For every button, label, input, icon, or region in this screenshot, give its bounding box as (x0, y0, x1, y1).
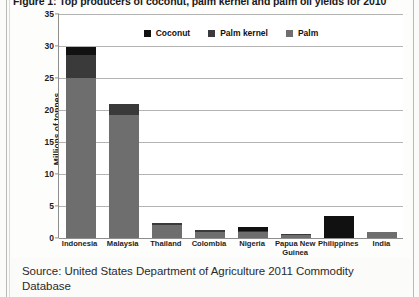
bar-slot-india[interactable] (360, 14, 403, 238)
bar-slot-malaysia[interactable] (102, 14, 145, 238)
y-tick-label-35: 35 (45, 9, 54, 19)
source-caption: Source: United States Department of Agri… (22, 264, 392, 294)
bar-slot-thailand[interactable] (145, 14, 188, 238)
y-tick-label-15: 15 (45, 137, 54, 147)
legend-swatch-icon (208, 30, 215, 37)
x-axis-label-papua-new-guinea: Papua New Guinea (274, 240, 317, 257)
stacked-bar[interactable] (66, 47, 96, 238)
bar-segment-palm[interactable] (281, 235, 311, 238)
x-axis-label-india: India (360, 240, 403, 257)
stacked-bar[interactable] (281, 234, 311, 238)
bar-series-group (59, 14, 403, 238)
plot-area: 05101520253035 CoconutPalm kernelPalm (58, 14, 403, 238)
x-axis-label-indonesia: Indonesia (58, 240, 101, 257)
legend-label: Palm kernel (220, 28, 268, 38)
bar-slot-indonesia[interactable] (59, 14, 102, 238)
y-tick-label-5: 5 (49, 201, 54, 211)
y-tick-label-20: 20 (45, 105, 54, 115)
bar-slot-papua-new-guinea[interactable] (274, 14, 317, 238)
x-axis-label-nigeria: Nigeria (231, 240, 274, 257)
bar-segment-palm[interactable] (195, 232, 225, 238)
chart-figure: Figure 1: Top producers of coconut, palm… (11, 0, 411, 258)
bar-slot-philippines[interactable] (317, 14, 360, 238)
page-rule-left-inner (9, 0, 10, 297)
page-rule-right (413, 0, 414, 297)
bar-slot-colombia[interactable] (188, 14, 231, 238)
stacked-bar[interactable] (109, 104, 139, 238)
x-axis-label-thailand: Thailand (144, 240, 187, 257)
legend-label: Palm (298, 28, 318, 38)
chart-title: Figure 1: Top producers of coconut, palm… (13, 0, 409, 7)
bar-segment-coconut[interactable] (66, 47, 96, 55)
page-rule-left (6, 0, 7, 297)
x-axis-label-philippines: Philippines (317, 240, 360, 257)
y-tick-label-25: 25 (45, 73, 54, 83)
legend-item-palm: Palm (286, 28, 318, 38)
y-tick-label-0: 0 (49, 233, 54, 243)
legend-swatch-icon (286, 30, 293, 37)
y-tick-label-10: 10 (45, 169, 54, 179)
bar-segment-palm[interactable] (66, 78, 96, 238)
y-tick-label-30: 30 (45, 41, 54, 51)
stacked-bar[interactable] (238, 227, 268, 238)
bar-slot-nigeria[interactable] (231, 14, 274, 238)
bar-segment-palm[interactable] (238, 232, 268, 238)
bar-segment-palm[interactable] (109, 115, 139, 238)
bar-segment-palm[interactable] (367, 232, 397, 238)
chart-legend: CoconutPalm kernelPalm (59, 28, 403, 38)
bar-segment-coconut[interactable] (324, 216, 354, 238)
legend-item-palm-kernel: Palm kernel (208, 28, 268, 38)
stacked-bar[interactable] (367, 232, 397, 238)
bar-segment-palm[interactable] (152, 225, 182, 238)
bar-segment-palm-kernel[interactable] (109, 104, 139, 116)
stacked-bar[interactable] (324, 216, 354, 238)
legend-label: Coconut (156, 28, 190, 38)
scanned-page: Figure 1: Top producers of coconut, palm… (0, 0, 419, 297)
legend-item-coconut: Coconut (144, 28, 190, 38)
legend-swatch-icon (144, 30, 151, 37)
x-axis-label-malaysia: Malaysia (101, 240, 144, 257)
bar-segment-palm-kernel[interactable] (66, 55, 96, 78)
x-axis-label-colombia: Colombia (187, 240, 230, 257)
x-axis-labels: IndonesiaMalaysiaThailandColombiaNigeria… (58, 240, 403, 257)
stacked-bar[interactable] (195, 230, 225, 238)
stacked-bar[interactable] (152, 223, 182, 238)
